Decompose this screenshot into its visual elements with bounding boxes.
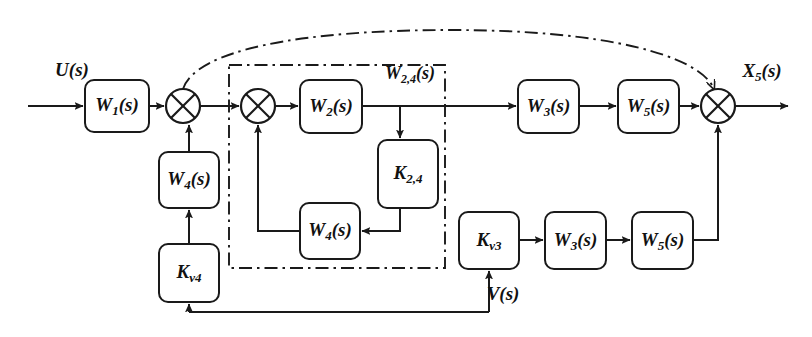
summing-junction-sum2[interactable] — [241, 89, 275, 123]
wire-k24-to-w4inner — [362, 208, 400, 231]
signal-label-v: V(s) — [487, 283, 520, 305]
block-k24[interactable]: K2,4 — [378, 140, 438, 208]
w24-group-label: W2,4(s) — [385, 63, 435, 86]
signal-label-u: U(s) — [55, 59, 89, 81]
block-kv4[interactable]: Kv4 — [159, 244, 219, 302]
block-w3_top[interactable]: W3(s) — [518, 80, 579, 133]
block-kv3[interactable]: Kv3 — [459, 212, 519, 269]
wire-w4inner-to-sum2 — [258, 125, 300, 231]
block-w2[interactable]: W2(s) — [300, 80, 362, 133]
block-diagram-canvas: W2,4(s) W1(s)W4(s)Kv4W2(s)K2,4W4(s)W3(s)… — [0, 0, 812, 337]
block-w3_bot[interactable]: W3(s) — [545, 212, 606, 269]
wire-w5bot-to-sum3 — [693, 125, 718, 240]
block-w1[interactable]: W1(s) — [85, 80, 149, 132]
block-w5_top[interactable]: W5(s) — [618, 80, 679, 133]
summing-junction-sum3[interactable] — [701, 89, 735, 123]
signal-label-x5: X5(s) — [741, 60, 781, 84]
summing-junction-sum1[interactable] — [166, 89, 200, 123]
block-diagram-svg: W2,4(s) W1(s)W4(s)Kv4W2(s)K2,4W4(s)W3(s)… — [0, 0, 812, 337]
block-w5_bot[interactable]: W5(s) — [632, 212, 693, 269]
block-w4_outer[interactable]: W4(s) — [159, 152, 219, 208]
block-w4_inner[interactable]: W4(s) — [300, 203, 360, 259]
